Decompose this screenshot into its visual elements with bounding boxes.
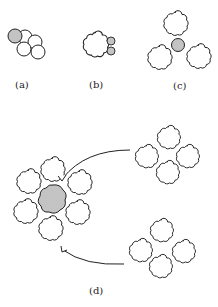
panel-a: (a)	[8, 29, 45, 90]
panel-label-d: (d)	[89, 285, 103, 296]
panel-d: (d)	[14, 125, 200, 296]
panel-b: (b)	[83, 31, 115, 90]
panel-label-b: (b)	[89, 79, 103, 90]
shaded-particle	[8, 29, 22, 43]
shaded-particle	[172, 39, 185, 52]
panel-label-c: (c)	[173, 80, 187, 91]
cluster-bottom-right	[129, 218, 195, 278]
panel-c: (c)	[148, 11, 211, 91]
arrow-bottom	[63, 250, 124, 264]
shaded-core	[38, 185, 66, 213]
arrowhead-bottom-icon	[61, 246, 67, 252]
cluster-top-right	[135, 125, 199, 184]
diagram-canvas: (a) (b) (c)	[0, 0, 218, 307]
panel-label-a: (a)	[15, 79, 29, 90]
